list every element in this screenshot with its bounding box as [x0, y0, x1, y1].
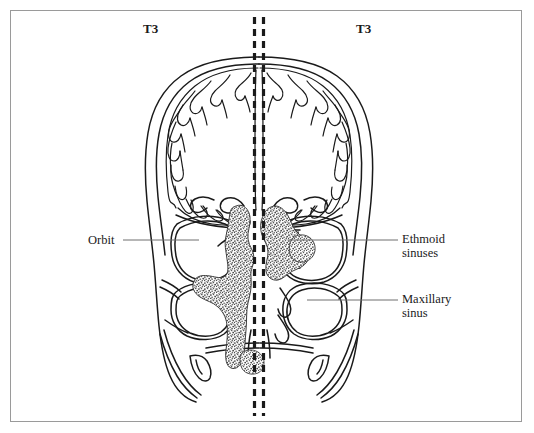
figure-root: T3 T3 Orbit Ethmoid sinuses Maxillary si… — [0, 0, 534, 433]
stage-label-left: T3 — [143, 21, 159, 37]
annotation-orbit: Orbit — [88, 233, 114, 247]
annotation-orbit-line1: Orbit — [88, 233, 114, 247]
annotation-ethmoid-sinuses: Ethmoid sinuses — [402, 232, 445, 260]
annotation-maxillary-line2: sinus — [402, 306, 451, 320]
annotation-maxillary-line1: Maxillary — [402, 292, 451, 306]
annotation-ethmoid-line2: sinuses — [402, 246, 445, 260]
brain-cortex — [166, 68, 352, 226]
anatomical-illustration — [0, 0, 534, 433]
annotation-maxillary-sinus: Maxillary sinus — [402, 292, 451, 320]
annotation-ethmoid-line1: Ethmoid — [402, 232, 445, 246]
stage-label-right: T3 — [356, 21, 372, 37]
